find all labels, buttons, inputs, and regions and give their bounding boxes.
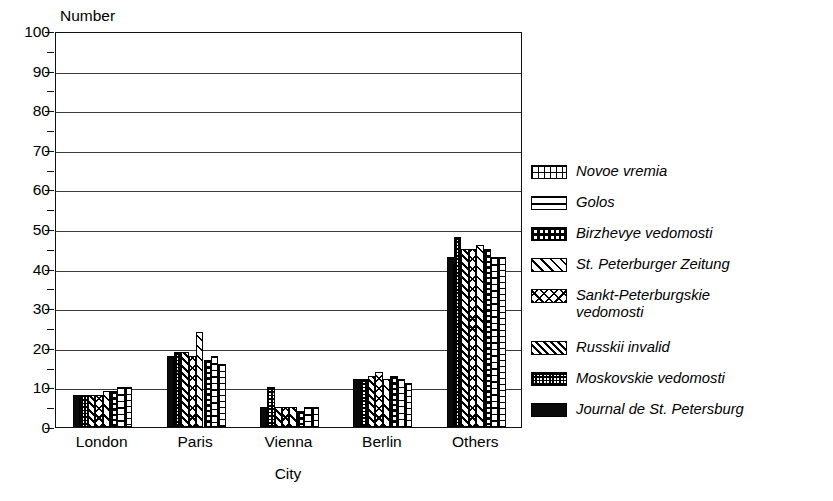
bar bbox=[260, 407, 267, 427]
bar bbox=[454, 237, 461, 427]
legend-swatch-fine-dots-icon bbox=[531, 372, 567, 386]
bar bbox=[80, 395, 87, 427]
legend-swatch-grid-icon bbox=[531, 165, 567, 179]
bar bbox=[103, 391, 110, 427]
bar bbox=[181, 352, 188, 427]
bar bbox=[174, 352, 181, 427]
bar bbox=[196, 332, 203, 427]
legend-item[interactable]: Moskovskie vedomosti bbox=[531, 370, 725, 387]
x-axis-tick-label: Others bbox=[429, 434, 522, 450]
y-axis-tick-label: 30 bbox=[8, 301, 50, 317]
bar bbox=[361, 379, 368, 427]
y-tick-minor bbox=[47, 210, 54, 211]
bar bbox=[353, 379, 360, 427]
legend-swatch-solid-black-icon bbox=[531, 403, 567, 417]
bar bbox=[368, 376, 375, 427]
bar bbox=[469, 249, 476, 427]
legend-item-label: Golos bbox=[576, 194, 615, 211]
y-axis-tick-label: 70 bbox=[8, 143, 50, 159]
bar bbox=[476, 245, 483, 427]
legend-item-label: Birzhevye vedomosti bbox=[576, 225, 713, 242]
bar bbox=[167, 356, 174, 427]
bar-group-others bbox=[447, 31, 506, 427]
bar bbox=[275, 407, 282, 427]
bar-group-berlin bbox=[353, 31, 412, 427]
legend-item[interactable]: St. Peterburger Zeitung bbox=[531, 256, 730, 273]
y-tick-minor bbox=[47, 289, 54, 290]
bar bbox=[491, 257, 498, 427]
bar bbox=[461, 249, 468, 427]
x-axis-tick-label: Berlin bbox=[335, 434, 428, 450]
legend-item[interactable]: Journal de St. Petersburg bbox=[531, 401, 744, 418]
legend-swatch-dots-icon bbox=[531, 227, 567, 241]
y-tick-minor bbox=[47, 408, 54, 409]
bar bbox=[484, 249, 491, 427]
bar bbox=[218, 364, 225, 427]
y-axis-tick-label: 100 bbox=[8, 24, 50, 40]
bar bbox=[117, 387, 124, 427]
y-tick-minor bbox=[47, 250, 54, 251]
x-axis-tick-label: London bbox=[55, 434, 148, 450]
legend-swatch-crosshatch-icon bbox=[531, 289, 567, 303]
y-axis-tick-label: 50 bbox=[8, 222, 50, 238]
x-axis-tick-label: Vienna bbox=[242, 434, 335, 450]
y-axis-tick-label: 40 bbox=[8, 262, 50, 278]
bar bbox=[447, 257, 454, 427]
legend-item-label: Russkii invalid bbox=[576, 339, 670, 356]
legend-item[interactable]: Golos bbox=[531, 194, 615, 211]
legend-item[interactable]: Sankt-Peterburgskie vedomosti bbox=[531, 287, 710, 321]
bar bbox=[282, 407, 289, 427]
bar bbox=[405, 383, 412, 427]
legend-item[interactable]: Birzhevye vedomosti bbox=[531, 225, 713, 242]
bar bbox=[125, 387, 132, 427]
y-axis-tick-label: 80 bbox=[8, 103, 50, 119]
y-axis-tick-label: 20 bbox=[8, 341, 50, 357]
legend-item-label: Moskovskie vedomosti bbox=[576, 370, 725, 387]
cropped-text-artifact bbox=[8, 0, 428, 7]
legend-item[interactable]: Russkii invalid bbox=[531, 339, 670, 356]
y-tick-minor bbox=[47, 329, 54, 330]
x-axis-tick-label: Paris bbox=[148, 434, 241, 450]
bar bbox=[110, 391, 117, 427]
bar bbox=[189, 356, 196, 427]
y-axis-tick-label: 60 bbox=[8, 182, 50, 198]
y-tick-minor bbox=[47, 91, 54, 92]
legend-item-label: St. Peterburger Zeitung bbox=[576, 256, 730, 273]
bar bbox=[304, 407, 311, 427]
chart-figure: 0102030405060708090100 Number City Novoe… bbox=[0, 0, 833, 501]
x-axis-title: City bbox=[228, 466, 348, 482]
legend-item[interactable]: Novoe vremia bbox=[531, 163, 667, 180]
bar bbox=[211, 356, 218, 427]
y-axis-tick-label: 0 bbox=[8, 420, 50, 436]
y-tick-minor bbox=[47, 369, 54, 370]
bar bbox=[267, 387, 274, 427]
y-axis-tick-label: 90 bbox=[8, 64, 50, 80]
legend-swatch-diagonal-lines-icon bbox=[531, 258, 567, 272]
y-tick-minor bbox=[47, 171, 54, 172]
bar bbox=[498, 257, 505, 427]
bar bbox=[398, 379, 405, 427]
y-axis-title: Number bbox=[60, 8, 115, 24]
legend-item-label: Journal de St. Petersburg bbox=[576, 401, 744, 418]
bar bbox=[375, 372, 382, 427]
bar-group-vienna bbox=[260, 31, 319, 427]
bar bbox=[95, 395, 102, 427]
legend-swatch-dense-diagonal-icon bbox=[531, 341, 567, 355]
plot-area bbox=[55, 32, 522, 428]
bar-group-paris bbox=[167, 31, 226, 427]
bar bbox=[88, 395, 95, 427]
bar bbox=[297, 411, 304, 427]
legend-swatch-horizontal-lines-icon bbox=[531, 196, 567, 210]
y-tick-minor bbox=[47, 131, 54, 132]
bar bbox=[390, 376, 397, 427]
bar bbox=[289, 407, 296, 427]
legend-item-label: Sankt-Peterburgskie vedomosti bbox=[576, 287, 710, 321]
legend-item-label: Novoe vremia bbox=[576, 163, 667, 180]
y-axis-tick-label: 10 bbox=[8, 380, 50, 396]
bar bbox=[204, 360, 211, 427]
y-tick-minor bbox=[47, 52, 54, 53]
bar bbox=[73, 395, 80, 427]
bar bbox=[312, 407, 319, 427]
bar-group-london bbox=[73, 31, 132, 427]
bar bbox=[383, 379, 390, 427]
